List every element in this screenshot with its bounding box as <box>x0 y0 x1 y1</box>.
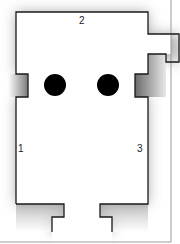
label-wall-3: 3 <box>137 143 143 154</box>
floor-plan-diagram: 1 2 3 <box>0 0 180 244</box>
label-wall-1: 1 <box>18 143 24 154</box>
label-wall-2: 2 <box>79 15 85 26</box>
column-left <box>44 74 66 96</box>
column-right <box>97 74 119 96</box>
left-recess-shade <box>8 74 28 97</box>
